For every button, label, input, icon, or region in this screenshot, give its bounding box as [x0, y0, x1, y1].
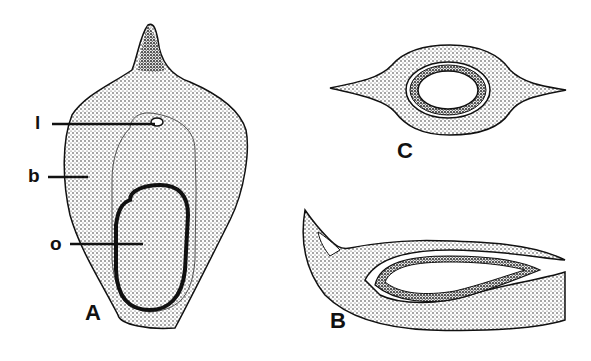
label-l: l — [35, 113, 40, 132]
panel-c-drawing — [330, 45, 566, 135]
panel-a-drawing — [48, 24, 247, 328]
label-o: o — [50, 234, 62, 253]
botanical-figure: l b o A B C — [0, 0, 591, 361]
panel-label-c: C — [397, 140, 413, 162]
panel-label-a: A — [85, 302, 101, 324]
panel-label-b: B — [330, 310, 346, 332]
label-b: b — [28, 166, 40, 185]
